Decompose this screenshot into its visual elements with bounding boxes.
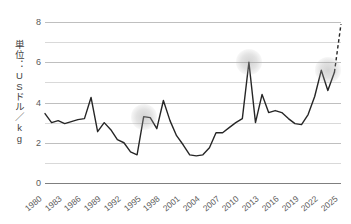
x-tick-label-2019: 2019 xyxy=(279,193,300,213)
y-tick-label-4: 4 xyxy=(21,98,41,108)
x-axis-tick-labels: 1980198319861989199219951998200120042007… xyxy=(45,183,341,224)
x-tick-label-2013: 2013 xyxy=(240,193,261,213)
x-tick-label-2004: 2004 xyxy=(181,193,202,213)
x-tick-label-1980: 1980 xyxy=(23,193,44,213)
x-tick-label-2022: 2022 xyxy=(299,193,320,213)
price-line-forecast-dashed xyxy=(334,24,341,72)
line-chart: 単位：USドル／kg 02468 19801983198619891992199… xyxy=(0,0,351,224)
x-tick-label-2025: 2025 xyxy=(319,193,340,213)
y-tick-label-8: 8 xyxy=(21,17,41,27)
price-line-solid xyxy=(45,62,334,156)
x-tick-label-2016: 2016 xyxy=(260,193,281,213)
y-tick-label-6: 6 xyxy=(21,57,41,67)
x-tick-label-2007: 2007 xyxy=(200,193,221,213)
series-svg xyxy=(45,22,341,183)
x-tick-label-1998: 1998 xyxy=(141,193,162,213)
x-tick-label-1983: 1983 xyxy=(43,193,64,213)
x-tick-label-1986: 1986 xyxy=(62,193,83,213)
y-axis-tick-labels: 02468 xyxy=(17,22,41,183)
x-tick-label-1995: 1995 xyxy=(121,193,142,213)
plot-area xyxy=(45,22,341,183)
y-tick-label-2: 2 xyxy=(21,138,41,148)
x-tick-label-2001: 2001 xyxy=(161,193,182,213)
x-tick-label-2010: 2010 xyxy=(220,193,241,213)
x-tick-label-1989: 1989 xyxy=(82,193,103,213)
y-tick-label-0: 0 xyxy=(21,178,41,188)
x-tick-label-1992: 1992 xyxy=(102,193,123,213)
